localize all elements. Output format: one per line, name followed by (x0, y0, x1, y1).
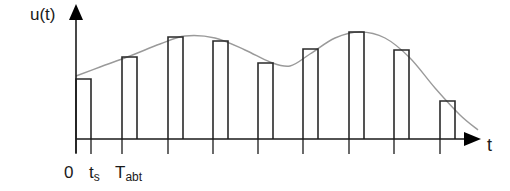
y-axis-label: u(t) (30, 5, 56, 24)
sample-pulse (394, 50, 409, 139)
tick-marks (76, 139, 440, 154)
tick-label-ts: ts (89, 163, 100, 184)
sample-pulse (168, 37, 183, 139)
tick-label-zero: 0 (64, 163, 73, 182)
sample-pulses (76, 32, 455, 139)
tick-label-ts-sub: s (94, 170, 100, 184)
y-axis-arrow-icon (69, 4, 83, 20)
tick-label-tabt-sub: abt (125, 170, 142, 184)
sample-pulse (303, 49, 318, 139)
sample-pulse (76, 79, 91, 139)
x-axis-arrow-icon (464, 132, 481, 146)
sample-pulse (349, 32, 364, 139)
tick-label-tabt-main: T (115, 163, 125, 182)
tick-label-tabt: Tabt (115, 163, 143, 184)
sample-pulse (122, 57, 137, 139)
sample-pulse (258, 63, 273, 139)
sampling-diagram: u(t) t 0 ts Tabt (0, 0, 510, 191)
x-axis-label: t (487, 135, 492, 155)
sample-pulse (213, 41, 228, 139)
